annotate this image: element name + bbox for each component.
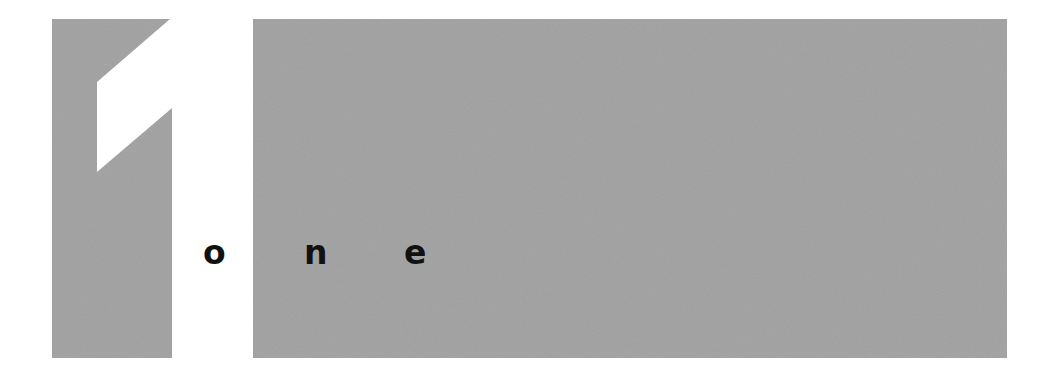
left-block bbox=[52, 19, 172, 358]
letter-o: o bbox=[203, 233, 226, 273]
right-block bbox=[253, 19, 1007, 358]
numeral-one-graphic bbox=[0, 0, 1058, 380]
one-logo: o n e bbox=[0, 0, 1058, 380]
letter-e: e bbox=[404, 233, 426, 273]
letter-n: n bbox=[304, 233, 328, 273]
